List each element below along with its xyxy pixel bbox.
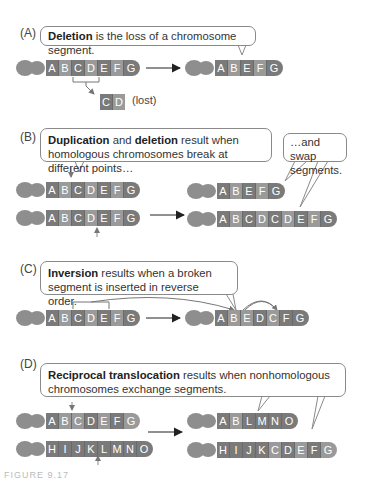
segment-list: A B C D C D E F G: [217, 211, 337, 227]
segment: A: [46, 182, 59, 198]
segment-list: A B C D E F G: [46, 413, 140, 429]
segment: I: [59, 441, 72, 457]
segment: D: [85, 310, 98, 326]
segment: E: [98, 413, 111, 429]
segment: H: [217, 442, 230, 458]
centromere: [16, 182, 46, 198]
segment: C: [72, 413, 85, 429]
segment: K: [85, 441, 98, 457]
chromosome-d-before-bottom: H I J K L M N O: [16, 441, 153, 457]
segment: F: [254, 60, 267, 76]
segment-list: A B C D E F G: [46, 310, 140, 326]
centromere: [185, 310, 215, 326]
segment: D: [282, 211, 295, 227]
segment: E: [98, 182, 111, 198]
segment: C: [269, 211, 282, 227]
segment: F: [280, 310, 293, 326]
segment: D: [256, 211, 269, 227]
chromosome-d-after-top: A B L M N O: [187, 413, 298, 429]
segment: F: [111, 310, 124, 326]
panel-label-c: (C): [20, 262, 37, 276]
segment: F: [308, 211, 321, 227]
chromosome-c-before: A B C D E F G: [16, 310, 140, 326]
segment: J: [72, 441, 85, 457]
segment: B: [230, 413, 243, 429]
segment: B: [230, 183, 243, 199]
segment-list: A B C D E F G: [46, 60, 140, 76]
segment: G: [124, 210, 140, 226]
segment: N: [269, 413, 282, 429]
segment: C: [267, 310, 280, 326]
segment: E: [98, 310, 111, 326]
callout-deletion: Deletion is the loss of a chromosome seg…: [40, 26, 256, 46]
segment: G: [124, 310, 140, 326]
centromere: [187, 183, 217, 199]
segment: D: [282, 442, 295, 458]
segment: E: [98, 60, 111, 76]
segment: M: [111, 441, 124, 457]
segment: E: [295, 211, 308, 227]
panel-label-d: (D): [20, 357, 37, 371]
segment: E: [295, 442, 308, 458]
segment: A: [46, 310, 59, 326]
segment: O: [137, 441, 153, 457]
term-deletion: deletion: [135, 134, 178, 146]
segment: G: [269, 183, 285, 199]
centromere: [185, 60, 215, 76]
segment: I: [230, 442, 243, 458]
segment: B: [230, 211, 243, 227]
term-inversion: Inversion: [48, 267, 98, 279]
segment: A: [217, 413, 230, 429]
segment: A: [215, 310, 228, 326]
segment: M: [256, 413, 269, 429]
panel-label-b: (B): [20, 130, 36, 144]
centromere: [16, 60, 46, 76]
term-deletion: Deletion: [48, 30, 93, 42]
chromosome-b-before-top: A B C D E F G: [16, 182, 140, 198]
segment: B: [228, 60, 241, 76]
segment: C: [72, 310, 85, 326]
centromere: [187, 442, 217, 458]
chromosome-a-before: A B C D E F G: [16, 60, 140, 76]
segment: G: [293, 310, 309, 326]
segment: B: [228, 310, 241, 326]
segment: G: [124, 413, 140, 429]
segment-list: A B C D E F G: [46, 210, 140, 226]
segment: C: [72, 60, 85, 76]
centromere: [187, 413, 217, 429]
segment: G: [321, 442, 337, 458]
segment: B: [59, 60, 72, 76]
segment: F: [111, 182, 124, 198]
segment: F: [308, 442, 321, 458]
segment: G: [321, 211, 337, 227]
segment: A: [46, 60, 59, 76]
chromosome-b-after-top: A B E F G: [187, 183, 285, 199]
segment: C: [72, 210, 85, 226]
callout-text: and: [110, 134, 135, 146]
segment: B: [59, 210, 72, 226]
segment: C: [269, 442, 282, 458]
segment-list: A B E F G: [215, 60, 283, 76]
chromosome-b-after-bottom: A B C D C D E F G: [187, 211, 337, 227]
segment: G: [124, 182, 140, 198]
segment: C: [243, 211, 256, 227]
segment: A: [46, 210, 59, 226]
segment: E: [241, 60, 254, 76]
figure-caption: FIGURE 9.17: [4, 470, 69, 479]
segment-list: A B L M N O: [217, 413, 298, 429]
segment: B: [59, 310, 72, 326]
segment: F: [111, 60, 124, 76]
segment-list: A B E D C F G: [215, 310, 309, 326]
term-duplication: Duplication: [48, 134, 110, 146]
chromosome-b-before-bottom: A B C D E F G: [16, 210, 140, 226]
segment: A: [46, 413, 59, 429]
panel-label-a: (A): [20, 26, 36, 40]
segment: H: [46, 441, 59, 457]
lost-segment: C D: [100, 94, 125, 109]
segment: A: [217, 183, 230, 199]
segment: A: [217, 211, 230, 227]
segment-list: H I J K L M N O: [46, 441, 153, 457]
segment: F: [256, 183, 269, 199]
segment: D: [85, 210, 98, 226]
segment: E: [241, 310, 254, 326]
